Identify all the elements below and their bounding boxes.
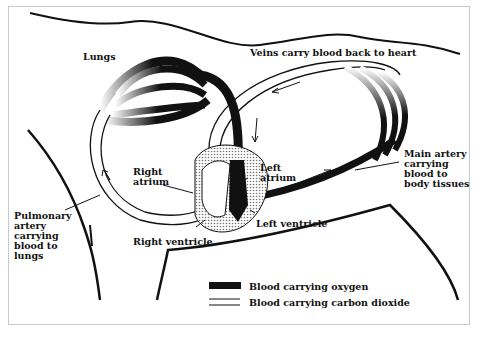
label-main-artery: Main artery carrying blood to body tissu…: [404, 149, 469, 189]
legend-oxygen-swatch: [209, 282, 241, 289]
legend-swatches: [209, 282, 241, 305]
label-veins: Veins carry blood back to heart: [250, 48, 416, 58]
legend-oxygen-label: Blood carrying oxygen: [249, 282, 368, 292]
arrow-veins: [272, 82, 300, 93]
body-capillaries: [345, 67, 405, 160]
legend-co2-label: Blood carrying carbon dioxide: [249, 298, 410, 308]
label-left-ventricle: Left ventricle: [256, 219, 327, 229]
label-right-ventricle: Right ventricle: [133, 237, 213, 247]
label-pulmonary-artery: Pulmonary artery carrying blood to lungs: [14, 211, 72, 261]
label-right-atrium: Right atrium: [133, 167, 169, 187]
arrow-veins-down: [252, 118, 258, 142]
lungs: [100, 61, 208, 122]
label-lungs: Lungs: [83, 52, 116, 62]
label-left-atrium: Left atrium: [260, 163, 296, 183]
